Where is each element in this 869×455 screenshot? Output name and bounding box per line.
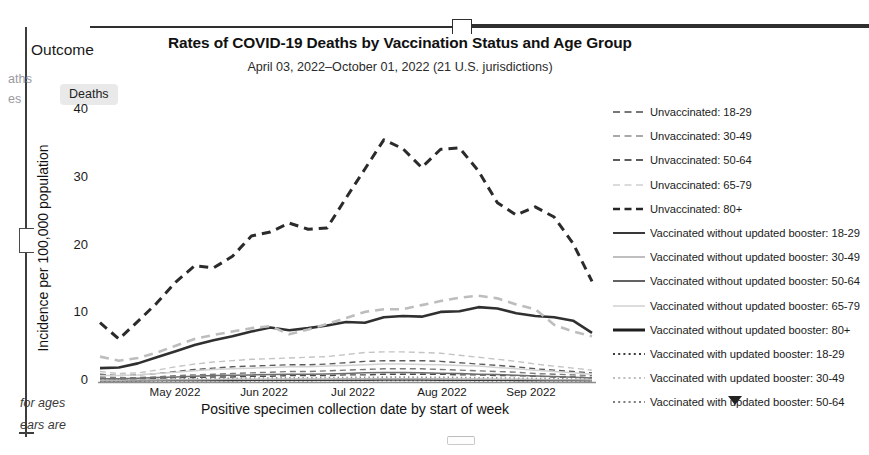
x-axis-tick-label: Aug 2022: [405, 385, 479, 398]
legend-item-label: Vaccinated without updated booster: 80+: [650, 324, 850, 336]
y-axis-tick-label: 10: [62, 304, 88, 319]
chart-series-line: [100, 352, 592, 374]
legend-item[interactable]: Unvaccinated: 30-49: [612, 124, 868, 148]
legend-item-label: Vaccinated without updated booster: 30-4…: [650, 251, 860, 263]
legend-line-swatch: [612, 179, 646, 191]
legend-line-swatch: [612, 106, 646, 118]
legend-item[interactable]: Vaccinated without updated booster: 50-6…: [612, 269, 868, 293]
chart-legend: Unvaccinated: 18-29Unvaccinated: 30-49Un…: [612, 100, 868, 414]
legend-line-swatch: [612, 348, 646, 360]
legend-item[interactable]: Vaccinated with updated booster: 18-29: [612, 342, 868, 366]
legend-item-label: Unvaccinated: 30-49: [650, 130, 752, 142]
x-axis-tick-label: Jun 2022: [227, 385, 301, 398]
y-axis-tick-label: 0: [62, 372, 88, 387]
chart-series-line: [100, 140, 592, 339]
y-axis-title: Incidence per 100,000 population: [35, 143, 51, 353]
legend-item-label: Unvaccinated: 80+: [650, 203, 742, 215]
y-axis-tick-label: 20: [62, 237, 88, 252]
x-axis-title: Positive specimen collection date by sta…: [120, 401, 590, 417]
x-axis-tick-label: May 2022: [138, 385, 212, 398]
legend-item[interactable]: Vaccinated without updated booster: 30-4…: [612, 245, 868, 269]
x-axis-tick-label: Jul 2022: [316, 385, 390, 398]
legend-item[interactable]: Unvaccinated: 18-29: [612, 100, 868, 124]
legend-item-label: Unvaccinated: 50-64: [650, 154, 752, 166]
legend-item-label: Vaccinated without updated booster: 50-6…: [650, 275, 860, 287]
legend-item-label: Vaccinated with updated booster: 30-49: [650, 372, 844, 384]
legend-item-label: Vaccinated with updated booster: 18-29: [650, 348, 844, 360]
x-axis-tick-label: Sep 2022: [494, 385, 568, 398]
legend-line-swatch: [612, 251, 646, 263]
legend-item-label: Vaccinated without updated booster: 18-2…: [650, 227, 860, 239]
legend-item[interactable]: Vaccinated without updated booster: 65-7…: [612, 294, 868, 318]
legend-line-swatch: [612, 372, 646, 384]
legend-item[interactable]: Vaccinated without updated booster: 80+: [612, 318, 868, 342]
legend-line-swatch: [612, 227, 646, 239]
legend-item[interactable]: Vaccinated with updated booster: 30-49: [612, 366, 868, 390]
chart-series-line: [100, 307, 592, 368]
legend-item-label: Unvaccinated: 65-79: [650, 179, 752, 191]
legend-line-swatch: [612, 275, 646, 287]
y-axis-tick-label: 30: [62, 169, 88, 184]
legend-line-swatch: [612, 300, 646, 312]
legend-item[interactable]: Unvaccinated: 65-79: [612, 173, 868, 197]
legend-line-swatch: [612, 203, 646, 215]
legend-item-label: Vaccinated without updated booster: 65-7…: [650, 300, 860, 312]
legend-item-label: Unvaccinated: 18-29: [650, 106, 752, 118]
legend-item[interactable]: Vaccinated without updated booster: 18-2…: [612, 221, 868, 245]
legend-item-label: Vaccinated with updated booster: 50-64: [650, 396, 844, 408]
legend-item[interactable]: Unvaccinated: 50-64: [612, 148, 868, 172]
legend-item[interactable]: Unvaccinated: 80+: [612, 197, 868, 221]
legend-line-swatch: [612, 130, 646, 142]
y-axis-tick-label: 40: [62, 101, 88, 116]
legend-line-swatch: [612, 154, 646, 166]
chevron-down-icon[interactable]: [728, 396, 742, 405]
legend-line-swatch: [612, 396, 646, 408]
legend-line-swatch: [612, 324, 646, 336]
